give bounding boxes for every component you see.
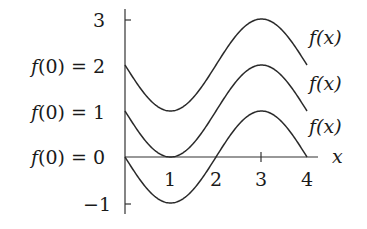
x-label-1: 1 [164, 168, 176, 190]
curve-label-top: f(x) [307, 26, 342, 48]
sine-family-chart: 3 f(0) = 2 f(0) = 1 f(0) = 0 −1 1 2 3 4 … [0, 0, 367, 229]
x-label-4: 4 [301, 168, 313, 190]
x-label-3: 3 [255, 168, 267, 190]
y-label-f0-0: f(0) = 0 [29, 146, 105, 168]
curve-label-mid: f(x) [307, 72, 342, 94]
x-axis-label: x [332, 145, 343, 167]
y-label-3: 3 [93, 9, 105, 31]
curve-f0-2 [125, 19, 307, 111]
y-label-neg1: −1 [83, 193, 111, 215]
curve-label-bot: f(x) [307, 115, 342, 137]
y-label-f0-1: f(0) = 1 [29, 101, 105, 123]
x-label-2: 2 [210, 168, 222, 190]
y-label-f0-2: f(0) = 2 [29, 55, 105, 77]
curve-f0-1 [125, 65, 307, 157]
